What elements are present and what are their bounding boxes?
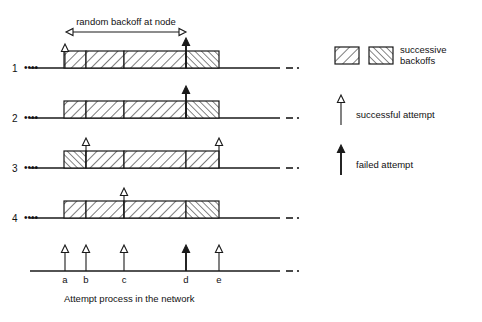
backoff-segment-4-2 (86, 201, 124, 218)
tick-label-e: e (216, 274, 221, 285)
row-label-4: 4 (12, 213, 18, 224)
row-label-1: 1 (12, 63, 18, 74)
backoff-segment-2-1 (64, 101, 86, 118)
node-row-2: 2•••• (12, 86, 299, 124)
backoff-segment-2-2 (86, 101, 124, 118)
backoff-segment-4-1 (64, 201, 86, 218)
backoff-segment-4-4 (186, 201, 219, 218)
attempt-axis-baseline-dot (297, 270, 299, 272)
arrow-head-failed-1-2 (182, 38, 189, 46)
hatch-dense-swatch (369, 47, 393, 64)
node-row-4: 4•••• (12, 188, 299, 224)
arrow-head-successful-1-1 (61, 44, 68, 52)
row-1-baseline-dot (297, 67, 299, 69)
tick-label-d: d (183, 274, 188, 285)
bottom-caption: Attempt process in the network (64, 293, 195, 304)
backoff-segment-2-4 (186, 101, 219, 118)
arrow-head-successful-tick-0 (61, 245, 68, 253)
backoff-span-arrow-left (66, 28, 73, 35)
row-leader-4: •••• (24, 212, 39, 223)
node-row-1: 1•••• (12, 38, 299, 74)
legend-successive-backoffs-line1: successive (400, 44, 446, 55)
node-row-3: 3•••• (12, 138, 299, 174)
backoff-segment-1-1 (64, 51, 86, 68)
legend-successful-attempt-label: successful attempt (356, 109, 435, 120)
row-label-2: 2 (12, 113, 18, 124)
arrow-head-successful-legend-ok (337, 95, 344, 103)
row-leader-3: •••• (24, 162, 39, 173)
arrow-head-successful-tick-1 (82, 245, 89, 253)
arrow-head-successful-tick-4 (215, 245, 222, 253)
backoff-timing-diagram: 1••••2••••3••••4•••• abcdeAttempt proces… (0, 0, 482, 322)
backoff-segment-1-2 (86, 51, 124, 68)
backoff-segment-3-3 (124, 151, 186, 168)
arrow-head-successful-3-2 (215, 138, 222, 146)
backoff-segment-1-3 (124, 51, 186, 68)
figure-canvas: 1••••2••••3••••4•••• abcdeAttempt proces… (0, 0, 482, 322)
backoff-span-arrow-right (179, 28, 186, 35)
row-leader-1: •••• (24, 62, 39, 73)
hatch-wide-swatch (335, 47, 359, 64)
row-3-baseline-dot (297, 167, 299, 169)
row-label-3: 3 (12, 163, 18, 174)
top-annotation: random backoff at node (76, 16, 176, 27)
row-4-baseline-dot (297, 217, 299, 219)
backoff-segment-3-2 (86, 151, 124, 168)
row-leader-2: •••• (24, 112, 39, 123)
backoff-segment-4-3 (124, 201, 186, 218)
arrow-head-successful-4-1 (120, 188, 127, 196)
arrow-head-failed-tick-3 (182, 245, 189, 253)
backoff-segment-1-4 (186, 51, 219, 68)
backoff-segment-3-1 (64, 151, 86, 168)
arrow-head-failed-2-1 (182, 86, 189, 94)
backoff-segment-3-4 (186, 151, 219, 168)
arrow-head-failed-legend-fail (337, 145, 344, 153)
row-2-baseline-dot (297, 117, 299, 119)
arrow-head-successful-3-1 (82, 138, 89, 146)
legend-failed-attempt-label: failed attempt (356, 159, 413, 170)
backoff-segment-2-3 (124, 101, 186, 118)
tick-label-b: b (83, 274, 88, 285)
tick-label-a: a (62, 274, 68, 285)
legend-successive-backoffs-line2: backoffs (400, 55, 435, 66)
arrow-head-successful-tick-2 (120, 245, 127, 253)
tick-label-c: c (122, 274, 127, 285)
